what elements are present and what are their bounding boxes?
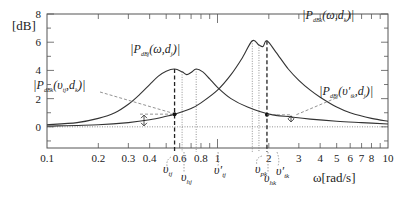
x-axis-label: ω[rad/s]: [313, 170, 356, 185]
axis-ticks: [47, 14, 388, 148]
annotation-text: |PdBk(ω,dk)|: [302, 7, 354, 23]
x-tick-label: 3: [296, 152, 302, 164]
annotation-leader-right: [296, 98, 336, 115]
annotation-leader-left: [100, 92, 173, 113]
x-tick-label: 0.4: [143, 152, 157, 164]
y-tick-label: 6: [36, 36, 42, 48]
frequency-markers: [175, 41, 267, 152]
plot-border: [47, 14, 388, 148]
y-tick-label: 0: [36, 121, 42, 133]
x-tick-label: 0.6: [173, 152, 187, 164]
x-tick-label: 0.8: [194, 152, 208, 164]
x-tick-label: 5: [334, 152, 340, 164]
x-tick-label: 8: [369, 152, 375, 164]
annotation-text: |PdBj(ω,dj)|: [130, 41, 180, 57]
x-tick-label: 4: [317, 152, 323, 164]
annotation-4: |PdBj(υ′tk,dj)|: [319, 83, 373, 99]
marker-label-tj: υtj: [163, 162, 172, 178]
y-axis-label: [dB]: [12, 18, 36, 33]
x-tick-label: 10: [383, 152, 395, 164]
marker-label-tk: υ′tk: [276, 164, 290, 180]
x-tick-label: 0.3: [121, 152, 135, 164]
x-tick-label: 0.2: [91, 152, 105, 164]
annotation-1: |PdBj(ω,dj)|: [130, 41, 180, 57]
y-tick-label: 2: [36, 93, 42, 105]
x-tick-label: 2: [266, 152, 272, 164]
y-tick-label: 4: [36, 64, 42, 76]
bode-magnitude-chart: 0.10.20.30.40.60.8123456781002468[dB]ω[r…: [0, 0, 405, 197]
data-points: [100, 92, 336, 126]
annotation-text: |PdBj(υ′tk,dj)|: [319, 83, 373, 99]
series-line-k: [47, 40, 388, 126]
annotation-3: |PdBk(υtj,dk)|: [33, 77, 86, 93]
annotation-text: |PdBk(υtj,dk)|: [33, 77, 86, 93]
annotations: |PdBj(ω,dj)||PdBk(ω,dk)||PdBk(υtj,dk)||P…: [33, 7, 373, 99]
y-tick-label: 8: [36, 8, 42, 20]
series-lines: [47, 40, 388, 126]
marker-label-hj: υhj: [181, 170, 192, 186]
x-tick-label: 0.1: [40, 152, 54, 164]
marker-label-tj: υ′tj: [214, 163, 226, 179]
plot-frame: [47, 14, 388, 148]
x-tick-label: 6: [347, 152, 353, 164]
x-tick-label: 7: [359, 152, 365, 164]
annotation-2: |PdBk(ω,dk)|: [302, 7, 354, 23]
